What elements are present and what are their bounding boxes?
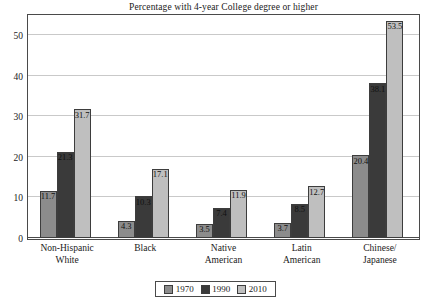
x-category-label: NativeAmerican [184,243,262,266]
chart-title: Percentage with 4-year College degree or… [27,2,420,12]
x-category-line1: Chinese/ [363,243,396,253]
bar-value-label: 31.7 [75,111,90,120]
bar-group: 3.57.411.9 [184,15,262,239]
bar-value-label: 7.4 [216,209,227,218]
x-category-line2: White [28,255,106,267]
bar-value-label: 17.1 [153,170,168,179]
bar [352,155,369,238]
bar-chart: Percentage with 4-year College degree or… [0,0,429,302]
x-category-line2: American [263,255,341,267]
chart-legend: 197019902010 [155,281,276,297]
y-axis-labels: 01020304050 [0,14,27,240]
x-axis-labels: Non-HispanicWhiteBlackNativeAmericanLati… [28,243,419,275]
bar [369,83,386,238]
bar-group: 11.721.331.7 [28,15,106,239]
bar-value-label: 20.4 [353,157,368,166]
legend-item[interactable]: 1970 [164,285,194,294]
bar [57,152,74,238]
x-category-line2: American [184,255,262,267]
x-category-line1: Black [134,243,156,253]
legend-item[interactable]: 2010 [237,285,267,294]
legend-swatch-icon [164,285,173,294]
y-tick-label: 30 [14,113,24,123]
bar [74,109,91,238]
bar-value-label: 53.5 [387,22,402,31]
plot-area: 11.721.331.74.310.317.13.57.411.93.78.51… [28,15,419,239]
bar-value-label: 8.5 [294,205,305,214]
x-category-label: LatinAmerican [263,243,341,266]
legend-label: 2010 [249,285,267,294]
bar [386,21,403,238]
bar-value-label: 3.5 [199,225,210,234]
y-tick-label: 20 [14,154,24,164]
bar-value-label: 11.9 [231,191,246,200]
y-tick-label: 0 [18,235,23,245]
x-category-label: Black [106,243,184,255]
x-category-label: Chinese/Japanese [341,243,419,266]
bar-value-label: 11.7 [41,192,56,201]
legend-label: 1990 [212,285,230,294]
x-category-label: Non-HispanicWhite [28,243,106,266]
x-category-line1: Non-Hispanic [40,243,93,253]
y-tick-label: 40 [14,73,24,83]
bar-value-label: 12.7 [309,188,324,197]
bar-group: 3.78.512.7 [263,15,341,239]
legend-swatch-icon [237,285,246,294]
x-category-line1: Latin [292,243,312,253]
bar-value-label: 3.7 [277,224,288,233]
bar-group: 20.438.153.5 [341,15,419,239]
bar-value-label: 38.1 [370,85,385,94]
legend-item[interactable]: 1990 [201,285,231,294]
bar-value-label: 21.3 [58,153,73,162]
bar-value-label: 4.3 [121,222,132,231]
x-category-line1: Native [211,243,236,253]
legend-swatch-icon [201,285,210,294]
x-category-line2: Japanese [341,255,419,267]
y-tick-label: 50 [14,32,24,42]
bar-value-label: 10.3 [136,198,151,207]
legend-label: 1970 [176,285,194,294]
y-tick-label: 10 [14,195,24,205]
bar-group: 4.310.317.1 [106,15,184,239]
